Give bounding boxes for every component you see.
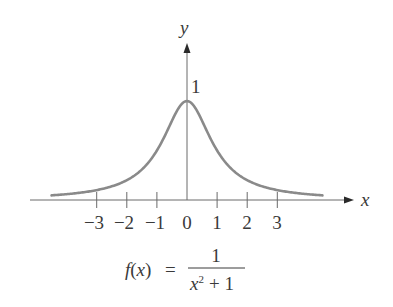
formula-denominator: x2+ 1 <box>189 273 234 294</box>
y-tick-label-1: 1 <box>191 76 201 97</box>
x-tick-label: 1 <box>212 212 222 233</box>
x-axis-label: x <box>360 189 370 210</box>
y-axis-label: y <box>178 17 189 38</box>
formula-denominator-exponent: 2 <box>198 273 204 285</box>
x-axis-arrow-icon <box>344 197 354 204</box>
x-tick-label: 3 <box>272 212 282 233</box>
formula-denominator-rest: + 1 <box>209 273 234 294</box>
formula-equals: = <box>165 259 176 280</box>
y-axis-arrow-icon <box>184 43 191 53</box>
x-tick-label: −2 <box>114 212 134 233</box>
x-tick-label: 2 <box>242 212 252 233</box>
formula-numerator: 1 <box>211 245 221 266</box>
x-tick-label: −1 <box>145 212 165 233</box>
x-tick-label: 0 <box>182 212 192 233</box>
plot-canvas: x y 1 −3 −2 −1 0 1 2 3 f(x) = 1 <box>0 0 393 307</box>
function-graph-figure: x y 1 −3 −2 −1 0 1 2 3 f(x) = 1 <box>0 0 393 307</box>
x-axis-tick-labels: −3 −2 −1 0 1 2 3 <box>84 212 282 233</box>
formula-lhs: f(x) <box>125 259 151 281</box>
formula-close-paren: ) <box>145 259 151 281</box>
function-formula: f(x) = 1 x2+ 1 <box>125 245 245 294</box>
x-tick-label: −3 <box>84 212 104 233</box>
